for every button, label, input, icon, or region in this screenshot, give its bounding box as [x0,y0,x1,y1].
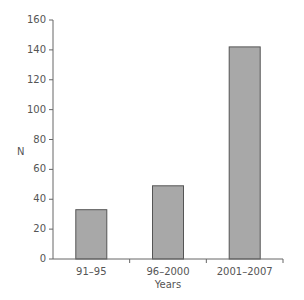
y-tick-label: 20 [16,224,46,234]
x-axis-title: Years [140,279,196,290]
y-axis-title: N [17,146,24,157]
bar-1 [153,186,184,259]
x-category-label: 91–95 [53,266,129,278]
bar-0 [76,210,107,259]
y-tick-label: 40 [16,194,46,204]
x-category-label: 96–2000 [130,266,206,278]
y-tick-label: 0 [16,254,46,264]
bar-chart: 020406080100120140160 91–9596–20002001–2… [0,0,304,300]
y-tick-label: 100 [16,105,46,115]
y-tick-label: 140 [16,45,46,55]
y-tick-label: 80 [16,135,46,145]
y-tick-label: 160 [16,15,46,25]
y-tick-label: 60 [16,164,46,174]
x-category-label: 2001–2007 [207,266,283,278]
y-tick-label: 120 [16,75,46,85]
bar-2 [229,47,260,259]
